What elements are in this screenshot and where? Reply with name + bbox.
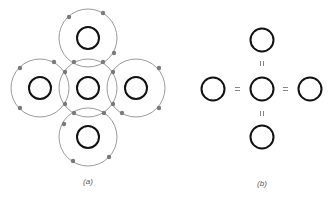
atom-bottom [77,126,99,148]
atom-top [251,29,274,52]
figure: (a) (b) [0,0,329,197]
electrons [18,11,161,163]
atom-right [299,78,322,101]
atom-left [202,78,225,101]
atom-center [77,77,99,99]
atom-center [251,78,274,101]
atom-cores [29,27,147,148]
shell-right [107,59,165,117]
electron-shells [11,9,165,166]
atom-left [29,77,51,99]
atom-right [125,77,147,99]
panel-a-label: (a) [83,177,93,186]
panel-a: (a) [11,9,165,186]
double-bonds [235,61,288,116]
panel-b-label: (b) [257,179,267,188]
atom-bottom [251,126,274,149]
atom-symbols [202,29,322,149]
atom-top [77,27,99,49]
panel-b: (b) [202,29,322,189]
